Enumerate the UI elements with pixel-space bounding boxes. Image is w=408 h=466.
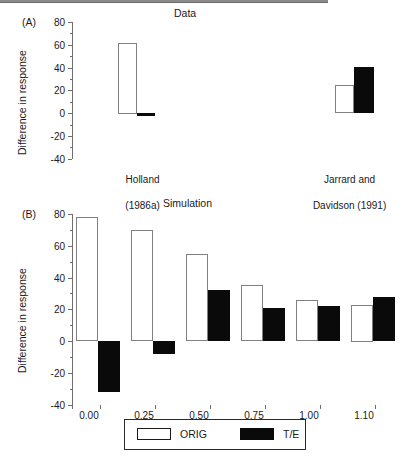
panel-a-ytick-label-80: 80: [40, 18, 65, 28]
panel-b-ytick-80: [68, 214, 72, 215]
panel-b-ytick-label-0: 0: [40, 337, 65, 347]
panel-b-xtick-0: [72, 405, 73, 409]
panel-b-xtick-3: [210, 405, 211, 409]
panel-b-bar-1-orig: [131, 230, 153, 342]
panel-a-ytick-label-neg40: -40: [36, 155, 65, 165]
panel-b-ytick-label-neg40: -40: [36, 401, 65, 411]
panel-a-ytick-minor-10: [70, 102, 73, 103]
panel-b-xtick-1: [100, 405, 101, 409]
panel-b-ytick-label-20: 20: [40, 305, 65, 315]
panel-b-bar-2-orig: [186, 254, 208, 342]
panel-a-group-label-jarrard-line1: Jarrard and: [324, 174, 375, 185]
panel-a-letter: (A): [22, 17, 36, 28]
panel-b-bar-4-te: [318, 306, 340, 341]
legend-swatch-te: [240, 428, 274, 440]
panel-b-ytick-minor-neg30: [70, 389, 73, 390]
legend-label-te: T/E: [283, 429, 299, 440]
panel-a-ytick-40: [68, 68, 72, 69]
panel-b-ytick-minor-neg10: [70, 357, 73, 358]
panel-a-ytick-0: [68, 113, 72, 114]
panel-a-ytick-neg20: [68, 136, 72, 137]
panel-b-xtick-4: [265, 405, 266, 409]
panel-b-bar-1-te: [153, 341, 175, 354]
panel-b-letter: (B): [22, 209, 36, 220]
panel-b-xtick-5: [320, 405, 321, 409]
panel-b-xtick-2: [155, 405, 156, 409]
panel-a-group-label-jarrard: Jarrard and Davidson (1991): [283, 160, 405, 225]
panel-a-ytick-label-20: 20: [40, 86, 65, 96]
panel-a-y-axis-title: Difference in response: [16, 50, 28, 155]
panel-a-ytick-minor-neg30: [70, 147, 73, 148]
panel-a-ytick-label-60: 60: [40, 41, 65, 51]
panel-b-ytick-label-40: 40: [40, 274, 65, 284]
panel-a-title: Data: [174, 8, 196, 19]
panel-b-bar-5-orig: [351, 305, 373, 342]
panel-b-bar-5-te: [373, 297, 395, 342]
panel-b-ytick-minor-30: [70, 293, 73, 294]
panel-a-group-label-holland: Holland (1986a): [97, 160, 177, 225]
panel-a-bar-holland-orig: [118, 43, 137, 114]
panel-b-ytick-0: [68, 341, 72, 342]
legend-swatch-orig: [137, 428, 171, 440]
panel-b-xtick-6: [375, 405, 376, 409]
panel-a-bar-holland-te: [137, 113, 155, 116]
panel-b-ytick-minor-50: [70, 262, 73, 263]
panel-b-xtick-label-0: 0.00: [67, 411, 111, 421]
panel-a-ytick-60: [68, 45, 72, 46]
panel-b-ytick-40: [68, 278, 72, 279]
panel-b-ytick-label-neg20: -20: [36, 369, 65, 379]
panel-b-title: Simulation: [163, 198, 212, 209]
figure-root: Difference in response (A) Data 80 60 40…: [0, 0, 408, 466]
panel-b-x-axis-line: [0, 2, 328, 3]
panel-b-ytick-label-80: 80: [40, 210, 65, 220]
panel-b-xtick-label-5: 1.10: [342, 411, 386, 421]
panel-a-group-label-holland-line2: (1986a): [125, 200, 159, 211]
panel-b-bar-0-te: [98, 341, 120, 392]
panel-b-y-axis-title: Difference in response: [16, 268, 28, 373]
panel-b-ytick-neg20: [68, 373, 72, 374]
panel-b-bar-0-orig: [76, 217, 98, 341]
panel-a-ytick-minor-30: [70, 79, 73, 80]
panel-a-y-axis-line: [72, 22, 73, 159]
panel-a-ytick-minor-70: [70, 33, 73, 34]
panel-a-ytick-20: [68, 90, 72, 91]
panel-b-y-axis-line: [72, 214, 73, 405]
panel-a-ytick-minor-neg10: [70, 125, 73, 126]
panel-b-ytick-60: [68, 246, 72, 247]
panel-b-ytick-20: [68, 309, 72, 310]
panel-a-bar-jarrard-orig: [335, 85, 354, 114]
panel-b-ytick-minor-70: [70, 230, 73, 231]
panel-a-ytick-label-40: 40: [40, 64, 65, 74]
panel-b-bar-4-orig: [296, 300, 318, 342]
panel-a-ytick-minor-50: [70, 56, 73, 57]
panel-a-ytick-80: [68, 22, 72, 23]
panel-b-ytick-label-60: 60: [40, 242, 65, 252]
panel-a-bar-jarrard-te: [354, 67, 374, 114]
panel-b-bar-2-te: [208, 290, 230, 341]
panel-b-bar-3-orig: [241, 285, 263, 341]
panel-b-bar-3-te: [263, 308, 285, 342]
panel-a-ytick-label-neg20: -20: [36, 132, 65, 142]
legend-label-orig: ORIG: [180, 429, 207, 440]
panel-a-group-label-jarrard-line2: Davidson (1991): [313, 200, 386, 211]
panel-a-group-label-holland-line1: Holland: [126, 174, 160, 185]
panel-b-ytick-minor-10: [70, 325, 73, 326]
panel-a-ytick-neg40: [68, 159, 72, 160]
panel-a-ytick-label-0: 0: [40, 109, 65, 119]
